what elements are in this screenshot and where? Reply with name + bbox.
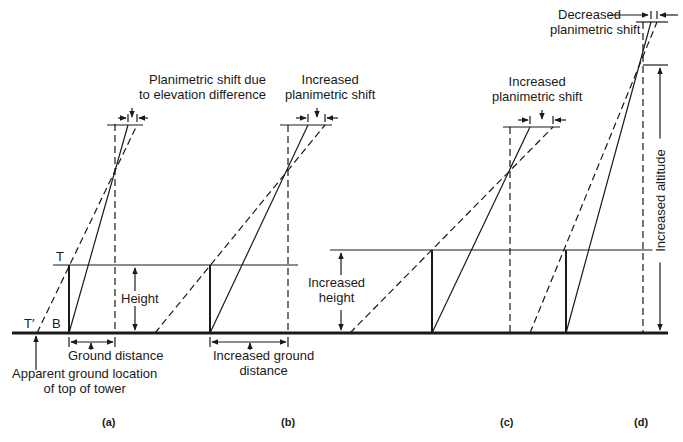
panel-a-geometry [36,108,298,370]
label-T: T [56,249,64,264]
label-line: Increased [308,275,365,290]
caption-d: (d) [634,416,648,428]
panel-b-geometry [155,108,338,350]
height-label: Height [121,291,159,306]
ray-base-d [566,22,651,333]
label-line: to elevation difference [139,87,266,102]
label-line: Increased ground [213,348,314,363]
caption-c: (c) [500,416,513,428]
label-line: Planimetric shift due [149,72,266,87]
label-line: planimetric shift [285,87,375,102]
panel-a-top-label: Planimetric shift due to elevation diffe… [149,72,266,102]
increased-altitude-label: Increased altitude [653,139,668,263]
label-line: Apparent ground location [12,366,157,381]
ray-base-a [69,125,128,333]
label-T-prime: T′ [24,316,34,331]
ray-base-b [210,125,308,333]
label-line: of top of tower [12,381,157,396]
apparent-location-label: Apparent ground location of top of tower [12,366,157,396]
panel-b-top-label: Increased planimetric shift [285,72,375,102]
panel-c-geometry [330,110,655,333]
ray-top-c [350,127,553,333]
panel-c-top-label: Increased planimetric shift [492,74,582,104]
label-B: B [52,316,61,331]
ray-top-b [155,125,325,333]
label-line: distance [213,363,314,378]
label-line: planimetric shift [492,89,582,104]
increased-height-label: Increased height [308,275,365,305]
ground-distance-label: Ground distance [68,348,163,363]
label-line: Increased [492,74,582,89]
caption-b: (b) [281,416,295,428]
label-line: height [308,290,365,305]
increased-ground-distance-label: Increased ground distance [213,348,314,378]
label-line: planimetric shift [550,22,640,37]
label-line: Decreased [558,7,640,22]
caption-a: (a) [102,416,115,428]
ray-base-c [432,127,530,333]
label-line: Increased [285,72,375,87]
panel-d-top-label: Decreased planimetric shift [550,7,640,37]
